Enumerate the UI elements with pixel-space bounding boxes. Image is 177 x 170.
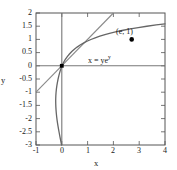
annotation-point-label: (e, 1) bbox=[116, 27, 133, 36]
y-tick-label-neg2: -2 bbox=[6, 115, 32, 123]
y-tick-label-2: 2 bbox=[6, 9, 32, 17]
y-tick-label-neg0.5: -0.5 bbox=[6, 75, 32, 83]
plot-frame bbox=[36, 13, 165, 145]
y-tick-label-neg1.5: -1.5 bbox=[6, 101, 32, 109]
x-tick-label-1: 1 bbox=[78, 147, 98, 155]
y-tick-label-neg1: -1 bbox=[6, 88, 32, 96]
x-tick-label-2: 2 bbox=[103, 147, 123, 155]
y-tick-label-1: 1 bbox=[6, 35, 32, 43]
y-tick-label-0.5: 0.5 bbox=[6, 48, 32, 56]
x-axis-label: x bbox=[94, 158, 98, 168]
y-tick-label-neg2.5: -2.5 bbox=[6, 128, 32, 136]
x-tick-label-0: 0 bbox=[52, 147, 72, 155]
y-axis-label: y bbox=[1, 75, 5, 85]
x-tick-label-4: 4 bbox=[155, 147, 175, 155]
annotation-equation-base: x = ye bbox=[88, 56, 108, 65]
data-point-e-1 bbox=[129, 37, 134, 42]
x-tick-label-neg1: -1 bbox=[26, 147, 46, 155]
data-point-origin bbox=[60, 64, 64, 68]
y-tick-label-0: 0 bbox=[6, 62, 32, 70]
annotation-equation: x = yey bbox=[88, 54, 111, 65]
y-tick-label-1.5: 1.5 bbox=[6, 22, 32, 30]
figure-container: 2 1.5 1 0.5 0 -0.5 -1 -1.5 -2 -2.5 -3 y … bbox=[0, 0, 177, 170]
x-tick-label-3: 3 bbox=[129, 147, 149, 155]
annotation-equation-exponent: y bbox=[108, 54, 111, 60]
